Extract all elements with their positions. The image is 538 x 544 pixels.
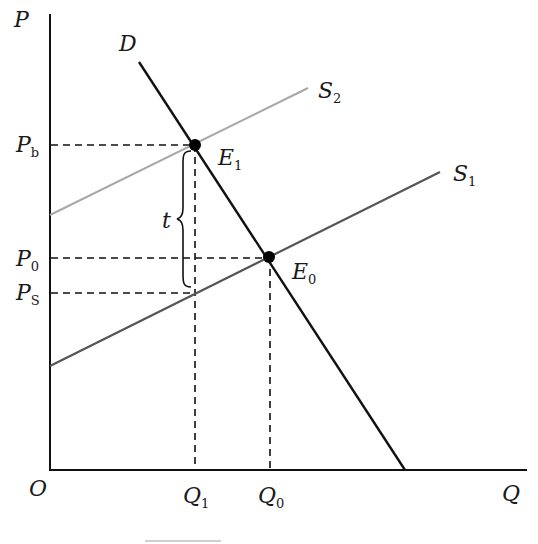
tax-brace-icon [177,151,191,287]
supply1-label: S1 [453,161,476,189]
q0-label: Q0 [258,483,284,511]
supply2-label: S2 [318,78,341,106]
p0-label: P0 [15,246,39,274]
axis-label-q: Q [502,481,520,506]
tax-incidence-diagram: P O Q D S2 S1 E1 E0 Pb P0 PS Q1 Q0 t [0,0,538,544]
equilibrium-point-e1 [189,139,201,151]
supply-curve-s2 [50,88,308,215]
equilibrium-point-e0 [263,251,275,263]
axis-label-p: P [13,7,30,32]
supply-curve-s1 [50,172,440,366]
guide-lines [51,145,270,469]
demand-curve [139,62,405,470]
pb-label: Pb [15,132,39,160]
e0-label: E0 [291,259,316,287]
demand-label: D [118,31,137,56]
q1-label: Q1 [183,483,209,511]
ps-label: PS [15,280,40,308]
origin-label: O [29,476,47,501]
e1-label: E1 [217,145,242,173]
bottom-divider [145,540,221,542]
tax-label: t [162,208,171,233]
